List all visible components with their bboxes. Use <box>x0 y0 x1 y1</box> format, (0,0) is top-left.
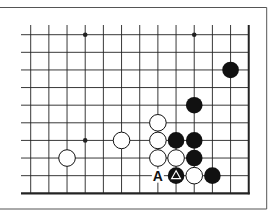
black-stone-icon <box>222 62 239 79</box>
star-point-icon <box>83 138 88 143</box>
black-stone-icon <box>186 132 203 149</box>
black-stone-icon <box>168 132 185 149</box>
white-stone-icon <box>113 132 130 149</box>
star-point-icon <box>192 32 197 37</box>
star-point-icon <box>83 32 88 37</box>
white-stone-icon <box>186 167 203 184</box>
board-labels: A <box>152 168 164 184</box>
board-label-a: A <box>153 168 163 184</box>
white-stone-icon <box>150 132 167 149</box>
white-stone-icon <box>150 115 167 132</box>
go-diagram: A <box>0 0 270 211</box>
black-stone-icon <box>186 150 203 167</box>
white-stone-icon <box>168 150 185 167</box>
white-stone-icon <box>150 150 167 167</box>
diagram-frame <box>0 8 267 210</box>
black-stone-icon <box>186 97 203 114</box>
white-stone-icon <box>59 150 76 167</box>
black-stone-icon <box>204 167 221 184</box>
